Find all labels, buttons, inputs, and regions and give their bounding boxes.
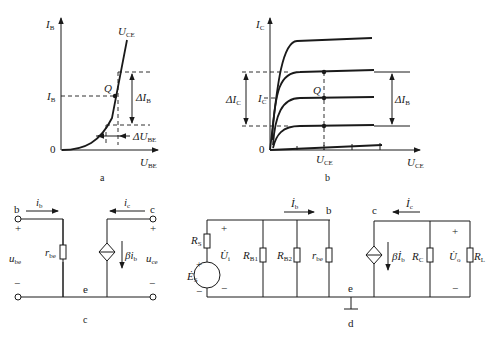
svg-text:RC: RC: [411, 250, 424, 264]
rb2-resistor: [294, 248, 300, 262]
rs-resistor: [204, 234, 210, 248]
svg-text:βİb: βİb: [391, 250, 405, 264]
svg-text:−: −: [14, 277, 20, 289]
svg-text:RB2: RB2: [276, 249, 292, 263]
caption-d: d: [348, 317, 354, 329]
q-label: Q: [313, 84, 321, 96]
svg-text:+: +: [196, 258, 202, 270]
svg-text:RL: RL: [473, 250, 485, 264]
figure-d-amplifier-equivalent-circuit: b c e d RS ĖS + − + − U̇i RB1 RB2 rbe İb…: [186, 197, 485, 329]
svg-text:RS: RS: [190, 234, 202, 248]
svg-text:RB1: RB1: [242, 249, 258, 263]
svg-text:+: +: [452, 225, 458, 237]
delta-ib-label: ΔIB: [394, 93, 410, 107]
origin-label: 0: [259, 143, 265, 155]
figure-c-small-signal-model: b c e ib ic rbe ube uce βib + + − − c: [9, 196, 158, 325]
delta-ib-label: ΔIB: [135, 91, 151, 105]
uce-tick-label: UCE: [316, 153, 333, 167]
svg-text:e: e: [83, 283, 88, 295]
svg-text:c: c: [372, 204, 377, 216]
origin-label: 0: [50, 143, 56, 155]
rbe-resistor: [60, 245, 66, 259]
svg-text:U̇o: U̇o: [449, 250, 461, 264]
svg-text:İc: İc: [405, 197, 413, 211]
svg-text:−: −: [452, 282, 458, 294]
svg-text:b: b: [326, 204, 332, 216]
delta-ic-label: ΔIC: [225, 93, 241, 107]
q-point: [113, 94, 117, 98]
x-axis-label: UBE: [140, 156, 157, 170]
y-axis-label: IB: [45, 18, 55, 32]
svg-text:rbe: rbe: [312, 249, 323, 263]
svg-text:e: e: [348, 282, 353, 294]
y-axis-label: IC: [255, 18, 265, 32]
q-label: Q: [104, 82, 112, 94]
rb1-resistor: [260, 248, 266, 262]
caption-c: c: [83, 314, 88, 325]
svg-text:+: +: [15, 222, 21, 234]
svg-text:c: c: [150, 203, 155, 215]
svg-text:ube: ube: [9, 252, 21, 266]
figure-b-output-characteristic: IC UCE 0 Q IC UCE ΔIC ΔIB b: [225, 18, 424, 183]
svg-text:rbe: rbe: [45, 246, 56, 260]
svg-text:−: −: [149, 277, 155, 289]
svg-text:uce: uce: [146, 252, 158, 266]
svg-text:U̇i: U̇i: [220, 249, 230, 263]
input-curve: [62, 40, 127, 150]
delta-ube-label: ΔUBE: [132, 130, 156, 144]
svg-text:b: b: [14, 203, 20, 215]
caption-b: b: [325, 172, 330, 183]
x-axis-label: UCE: [407, 156, 424, 170]
rbe-resistor: [326, 248, 332, 262]
svg-text:βib: βib: [124, 249, 138, 263]
svg-text:−: −: [221, 282, 227, 294]
svg-text:+: +: [150, 222, 156, 234]
svg-text:İb: İb: [290, 197, 299, 211]
svg-text:ib: ib: [36, 196, 43, 210]
rl-resistor: [467, 248, 473, 262]
rc-resistor: [427, 248, 433, 262]
caption-a: a: [100, 172, 105, 183]
q-point: [322, 96, 326, 100]
figure-a-input-characteristic: IB UBE 0 UCE Q IB ΔIB ΔUBE a: [45, 18, 158, 183]
ic-tick-label: IC: [257, 92, 267, 106]
svg-text:+: +: [221, 222, 227, 234]
curve-label: UCE: [118, 25, 135, 39]
svg-text:ic: ic: [124, 196, 130, 210]
svg-text:−: −: [196, 285, 202, 297]
ib-tick-label: IB: [46, 90, 56, 104]
